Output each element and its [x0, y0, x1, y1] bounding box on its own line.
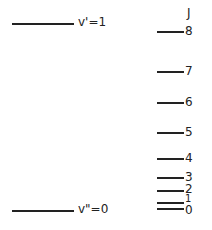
rotational-level-line-3	[157, 177, 184, 179]
vibrational-level-line-v0	[12, 210, 74, 212]
rotational-level-line-2	[157, 190, 184, 192]
vibrational-level-label-v1: v'=1	[78, 16, 106, 28]
rotational-level-line-1	[157, 202, 184, 204]
rotational-level-label-8: 8	[185, 25, 193, 37]
vibrational-level-line-v1	[12, 23, 74, 25]
rotational-level-line-5	[157, 132, 184, 134]
rotational-level-line-4	[157, 158, 184, 160]
vibrational-level-label-v0: v"=0	[78, 203, 108, 215]
rotational-level-label-7: 7	[185, 65, 193, 77]
rotational-level-line-7	[157, 71, 184, 73]
rotational-level-line-6	[157, 102, 184, 104]
rotational-level-label-4: 4	[185, 152, 193, 164]
rotational-level-label-6: 6	[185, 96, 193, 108]
rotational-header-j: J	[187, 7, 191, 19]
rotational-level-label-5: 5	[185, 126, 193, 138]
rotational-level-label-0: 0	[185, 204, 193, 216]
rotational-level-line-0	[157, 208, 184, 210]
rotational-level-line-8	[157, 31, 184, 33]
